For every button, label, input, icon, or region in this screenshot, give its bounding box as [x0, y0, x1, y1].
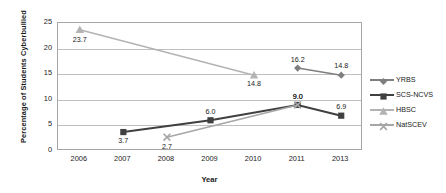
legend-item-natscev[interactable]: NatSCEV — [370, 117, 444, 132]
data-point-triangle-marker — [379, 107, 387, 115]
y-tick-label: 0 — [28, 145, 52, 154]
y-axis-title: Percentage of Students Cyberbullied — [19, 2, 28, 152]
legend-item-scs-ncvs[interactable]: SCS-NCVS — [370, 87, 444, 102]
series-line — [80, 30, 254, 76]
data-label: 16.2 — [283, 55, 313, 64]
legend-marker-triangle-icon — [378, 106, 389, 117]
legend-swatch-icon — [370, 89, 394, 100]
series-hbsc — [76, 25, 259, 78]
legend-swatch-icon — [370, 119, 394, 130]
data-label: 2.7 — [152, 142, 182, 151]
data-label: 6.9 — [326, 102, 356, 111]
data-label: 3.7 — [108, 136, 138, 145]
series-layer — [58, 23, 363, 151]
data-point-x-marker — [380, 123, 387, 130]
data-point-square-marker — [380, 93, 386, 99]
series-line — [123, 105, 341, 132]
y-tick-label: 15 — [28, 68, 52, 77]
y-tick-label: 25 — [28, 17, 52, 26]
data-label: 9.0 — [283, 92, 313, 101]
legend-label: NatSCEV — [394, 120, 427, 129]
data-label: 14.8 — [239, 79, 269, 88]
data-point-square-marker — [120, 129, 126, 135]
legend: YRBSSCS-NCVSHBSCNatSCEV — [370, 72, 444, 132]
legend-swatch-icon — [370, 74, 394, 85]
y-tick-label: 20 — [28, 43, 52, 52]
legend-marker-diamond-icon — [378, 76, 389, 87]
legend-label: HBSC — [394, 105, 416, 114]
series-scs-ncvs — [120, 102, 344, 135]
x-tick-label: 2007 — [100, 154, 144, 163]
legend-label: SCS-NCVS — [394, 90, 433, 99]
y-tick-label: 10 — [28, 94, 52, 103]
data-label: 6.0 — [196, 107, 226, 116]
x-tick-label: 2008 — [144, 154, 188, 163]
data-point-diamond-marker — [294, 64, 301, 71]
x-tick-label: 2011 — [275, 154, 319, 163]
legend-label: YRBS — [394, 75, 416, 84]
data-point-square-marker — [207, 117, 213, 123]
plot-area: 16.214.83.76.09.06.923.714.82.79.0 — [57, 22, 362, 150]
x-tick-label: 2010 — [231, 154, 275, 163]
data-label: 23.7 — [65, 35, 95, 44]
data-label: 14.8 — [326, 61, 356, 70]
data-point-diamond-marker — [380, 78, 387, 85]
data-point-triangle-marker — [76, 25, 84, 33]
legend-swatch-icon — [370, 104, 394, 115]
legend-item-hbsc[interactable]: HBSC — [370, 102, 444, 117]
x-axis-title: Year — [57, 175, 362, 184]
legend-marker-x-icon — [378, 121, 389, 132]
x-tick-label: 2009 — [188, 154, 232, 163]
x-tick-label: 2006 — [57, 154, 101, 163]
series-line — [167, 105, 298, 137]
cyberbullying-line-chart: Percentage of Students Cyberbullied Year… — [0, 0, 446, 193]
data-point-square-marker — [338, 113, 344, 119]
x-tick-label: 2013 — [318, 154, 362, 163]
legend-item-yrbs[interactable]: YRBS — [370, 72, 444, 87]
data-point-diamond-marker — [338, 72, 345, 79]
y-tick-label: 5 — [28, 119, 52, 128]
legend-marker-square-icon — [378, 91, 389, 102]
